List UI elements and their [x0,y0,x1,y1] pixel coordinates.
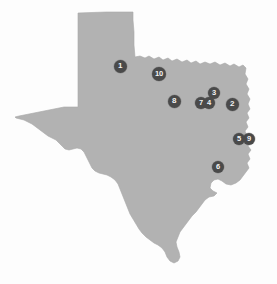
map-marker-label: 2 [230,100,234,108]
map-marker-1[interactable]: 1 [114,60,127,73]
map-marker-8[interactable]: 8 [168,95,181,108]
map-marker-label: 9 [247,135,251,143]
map-marker-label: 3 [212,89,216,97]
texas-map-figure: 1 10 8 3 7 4 2 5 9 6 [0,0,277,284]
map-marker-label: 5 [237,135,241,143]
map-marker-2[interactable]: 2 [226,98,239,111]
map-marker-10[interactable]: 10 [152,67,166,81]
map-marker-label: 4 [207,99,211,107]
map-markers-layer: 1 10 8 3 7 4 2 5 9 6 [0,0,277,284]
map-marker-6[interactable]: 6 [212,161,224,173]
map-marker-label: 6 [216,163,220,171]
map-marker-4[interactable]: 4 [203,97,215,109]
map-marker-9[interactable]: 9 [243,133,255,145]
map-marker-label: 1 [118,62,122,70]
map-marker-label: 8 [172,97,176,105]
map-marker-label: 10 [155,70,163,78]
